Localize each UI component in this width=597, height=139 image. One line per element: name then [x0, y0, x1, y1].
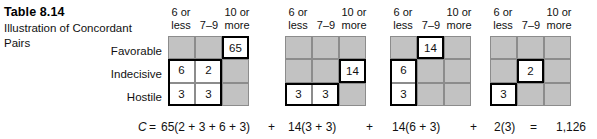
grid-1: 656233	[168, 36, 249, 106]
grid-2-cell-r2-c1: 3	[312, 83, 339, 106]
row-label-group: Favorable Indecisive Hostile	[96, 40, 162, 110]
grid-3-column-headers: 6 orless 7–910 ormore	[390, 6, 471, 36]
formula-plus-1: +	[268, 117, 275, 137]
grid-2-column-header-2: 10 ormore	[336, 6, 372, 32]
column-header-line1: 10 or	[219, 6, 255, 19]
grid-3-cell-r1-c1	[417, 59, 444, 82]
grid-1-cell-r0-c1	[195, 36, 222, 59]
row-label-favorable: Favorable	[96, 40, 162, 63]
formula-equals-2: =	[530, 117, 537, 137]
column-header-line2: more	[219, 19, 255, 32]
formula-plus-2: +	[366, 117, 373, 137]
grid-3-group: 6 orless 7–910 ormore1463	[390, 6, 471, 106]
grid-1-cell-r2-c0: 3	[168, 83, 195, 106]
column-header-line2: more	[541, 19, 577, 32]
grid-1-cell-r1-c2	[222, 59, 249, 82]
formula-row: C = 65(2 + 3 + 6 + 3) + 14(3 + 3) + 14(6…	[0, 117, 597, 137]
formula-plus-3: +	[470, 117, 477, 137]
column-header-line2: more	[441, 19, 477, 32]
column-header-line1: 10 or	[336, 6, 372, 19]
grid-4-cell-r1-c1: 2	[517, 59, 544, 82]
grid-4: 23	[490, 36, 571, 106]
grid-3-cell-r1-c0: 6	[390, 59, 417, 82]
grid-2-cell-r1-c1	[312, 59, 339, 82]
grid-1-cell-r2-c2	[222, 83, 249, 106]
grid-4-column-header-2: 10 ormore	[541, 6, 577, 32]
formula-result: 1,126	[556, 117, 586, 137]
grid-4-cell-r0-c0	[490, 36, 517, 59]
grid-4-cell-r0-c1	[517, 36, 544, 59]
grid-3-cell-r0-c2	[444, 36, 471, 59]
grid-2-cell-r2-c2	[339, 83, 366, 106]
grid-3-cell-r1-c2	[444, 59, 471, 82]
column-header-line2: more	[336, 19, 372, 32]
grid-3-column-header-2: 10 ormore	[441, 6, 477, 32]
grid-4-cell-r2-c0: 3	[490, 83, 517, 106]
formula-c-symbol: C	[138, 117, 147, 137]
formula-term-4: 2(3)	[494, 117, 515, 137]
grid-3-cell-r0-c0	[390, 36, 417, 59]
grid-4-column-headers: 6 orless 7–910 ormore	[490, 6, 571, 36]
grid-2-cell-r0-c2	[339, 36, 366, 59]
grid-1-cell-r1-c1: 2	[195, 59, 222, 82]
table-number: Table 8.14	[4, 5, 154, 20]
grid-4-group: 6 orless 7–910 ormore23	[490, 6, 571, 106]
grid-2: 1433	[285, 36, 366, 106]
grid-1-cell-r0-c0	[168, 36, 195, 59]
grid-2-cell-r0-c1	[312, 36, 339, 59]
column-header-line1: 10 or	[541, 6, 577, 19]
grid-2-cell-r2-c0: 3	[285, 83, 312, 106]
grid-4-cell-r1-c2	[544, 59, 571, 82]
formula-term-3: 14(6 + 3)	[392, 117, 440, 137]
formula-term-1: 65(2 + 3 + 6 + 3)	[161, 117, 250, 137]
grid-1-group: 6 orless 7–910 ormore656233	[168, 6, 249, 106]
grid-3-cell-r2-c1	[417, 83, 444, 106]
grid-4-cell-r0-c2	[544, 36, 571, 59]
formula-term-2: 14(3 + 3)	[288, 117, 336, 137]
grid-2-group: 6 orless 7–910 ormore1433	[285, 6, 366, 106]
grid-1-column-headers: 6 orless 7–910 ormore	[168, 6, 249, 36]
grid-2-cell-r0-c0	[285, 36, 312, 59]
grid-2-cell-r1-c0	[285, 59, 312, 82]
grid-4-cell-r2-c2	[544, 83, 571, 106]
grid-4-cell-r2-c1	[517, 83, 544, 106]
grid-1-cell-r0-c2: 65	[222, 36, 249, 59]
grid-2-cell-r1-c2: 14	[339, 59, 366, 82]
row-label-hostile: Hostile	[96, 86, 162, 109]
row-label-indecisive: Indecisive	[96, 63, 162, 86]
column-header-line1: 10 or	[441, 6, 477, 19]
grid-3-cell-r0-c1: 14	[417, 36, 444, 59]
formula-equals-1: =	[149, 117, 156, 137]
grid-3-cell-r2-c0: 3	[390, 83, 417, 106]
grid-3: 1463	[390, 36, 471, 106]
grid-3-cell-r2-c2	[444, 83, 471, 106]
grid-4-cell-r1-c0	[490, 59, 517, 82]
grid-1-cell-r1-c0: 6	[168, 59, 195, 82]
grid-1-cell-r2-c1: 3	[195, 83, 222, 106]
grid-1-column-header-2: 10 ormore	[219, 6, 255, 32]
grid-2-column-headers: 6 orless 7–910 ormore	[285, 6, 366, 36]
